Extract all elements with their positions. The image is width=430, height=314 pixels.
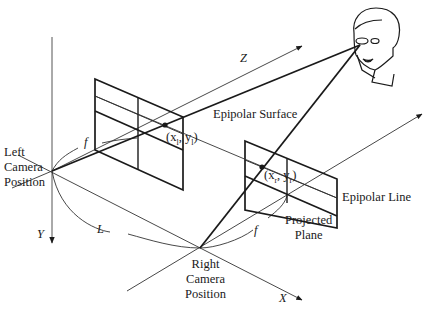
left-camera-label: Left Camera Position <box>4 145 45 190</box>
focal-length-right-label: f <box>254 223 257 237</box>
y-axis-label: Y <box>37 227 44 241</box>
left-point-label: (xl, yl) <box>166 130 198 150</box>
baseline-arc-2 <box>128 234 200 248</box>
left-ray <box>52 45 360 171</box>
left-image-point <box>162 122 167 127</box>
baseline-label: L <box>97 222 104 236</box>
right-camera-label: Right Camera Position <box>185 257 226 302</box>
epipolar-line-label: Epipolar Line <box>342 190 411 204</box>
z-axis-label: Z <box>240 51 247 65</box>
x-axis-label: X <box>279 291 287 305</box>
right-point-label: (xr, yr) <box>264 168 296 188</box>
face-icon <box>354 8 400 86</box>
focal-length-left-label: f <box>84 135 87 149</box>
projected-plane-label: Projected Plane <box>285 213 332 243</box>
x-axis <box>18 155 302 300</box>
epipolar-surface-label: Epipolar Surface <box>213 107 297 121</box>
epipolar-diagram: Z Epipolar Surface (xl, yl) f Left Camer… <box>0 0 430 314</box>
